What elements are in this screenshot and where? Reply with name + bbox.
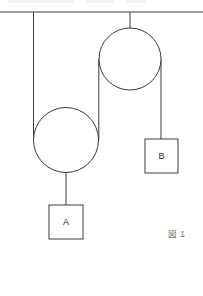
block-b-label: B bbox=[158, 151, 164, 161]
pulley-diagram-figure: B A 図 1 bbox=[0, 0, 203, 296]
figure-caption: 図 1 bbox=[168, 227, 186, 239]
pulley-diagram-canvas: B A bbox=[0, 0, 203, 296]
upper-fixed-pulley bbox=[99, 28, 161, 90]
block-a-label: A bbox=[63, 217, 69, 227]
lower-movable-pulley bbox=[34, 108, 99, 173]
